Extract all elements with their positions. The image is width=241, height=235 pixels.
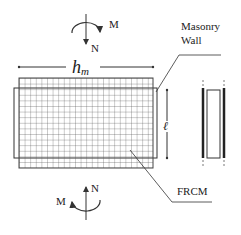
bottom-load-symbol: N M: [56, 182, 100, 220]
masonry-wall-callout: Masonry Wall: [156, 20, 221, 92]
width-dimension: hm: [18, 57, 154, 77]
top-moment-label: M: [109, 18, 119, 30]
bottom-moment-label: M: [56, 195, 66, 207]
diagram-canvas: M N hm ℓ Masonry Wall FRCM: [0, 0, 241, 235]
top-load-symbol: M N: [72, 14, 119, 54]
length-symbol: ℓ: [163, 119, 168, 133]
frcm-label: FRCM: [177, 185, 208, 197]
top-axial-label: N: [91, 42, 99, 54]
masonry-wall-label-line2: Wall: [181, 34, 202, 46]
frcm-grid-panel: [19, 78, 153, 168]
length-dimension: ℓ: [163, 89, 168, 159]
masonry-wall-label-line1: Masonry: [181, 20, 221, 32]
bottom-axial-label: N: [91, 182, 99, 194]
width-symbol: hm: [72, 57, 89, 77]
cross-section-view: [203, 80, 224, 168]
